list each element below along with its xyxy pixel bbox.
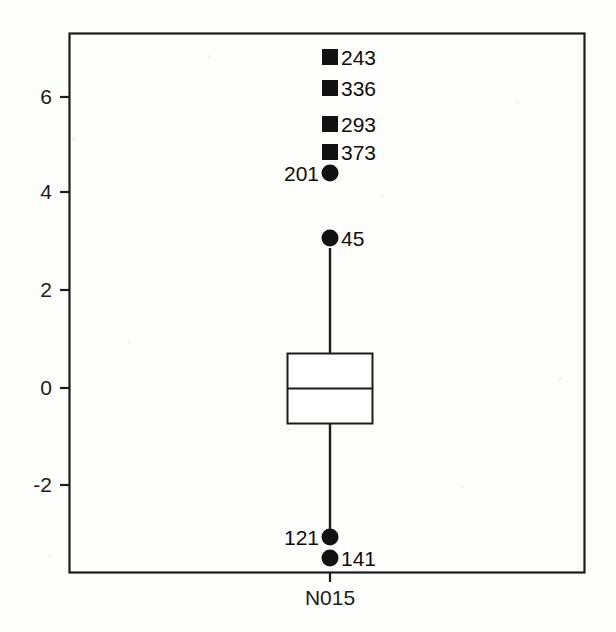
y-tick-label: 0 <box>40 376 52 399</box>
y-tick-2: 2 <box>40 278 69 301</box>
x-axis: N015 <box>305 572 355 609</box>
outlier-label: 293 <box>341 113 376 136</box>
outlier-label: 373 <box>341 141 376 164</box>
y-tick-6: 6 <box>40 85 69 108</box>
outlier-121: 121 <box>284 526 339 549</box>
y-tick-label: 4 <box>40 180 52 203</box>
outlier-label: 121 <box>284 526 319 549</box>
outlier-label: 336 <box>341 77 376 100</box>
x-category-label: N015 <box>305 586 355 609</box>
outlier-label: 45 <box>341 227 364 250</box>
outlier-293: 293 <box>322 113 376 136</box>
plot-frame <box>70 34 585 573</box>
outlier-373: 373 <box>322 141 376 164</box>
outlier-label: 201 <box>284 162 319 185</box>
y-tick-label: -2 <box>33 473 52 496</box>
boxplot-canvas: 6 4 2 0 -2 <box>0 0 616 632</box>
outlier-circle-marker <box>322 230 339 247</box>
outlier-square-marker <box>322 144 338 160</box>
outlier-141: 141 <box>322 547 377 570</box>
outlier-243: 243 <box>322 46 376 69</box>
outlier-square-marker <box>322 49 338 65</box>
y-tick-label: 2 <box>40 278 52 301</box>
outlier-circle-marker <box>322 165 339 182</box>
y-tick-label: 6 <box>40 85 52 108</box>
outlier-square-marker <box>322 80 338 96</box>
outlier-circle-marker <box>322 550 339 567</box>
box-group-n015 <box>288 248 373 530</box>
y-axis: 6 4 2 0 -2 <box>33 85 69 496</box>
outlier-square-marker <box>322 116 338 132</box>
y-tick-minus2: -2 <box>33 473 69 496</box>
outlier-201: 201 <box>284 162 339 185</box>
outlier-label: 243 <box>341 46 376 69</box>
outlier-circle-marker <box>322 529 339 546</box>
outlier-336: 336 <box>322 77 376 100</box>
y-tick-0: 0 <box>40 376 69 399</box>
y-tick-4: 4 <box>40 180 69 203</box>
outlier-label: 141 <box>341 547 376 570</box>
outlier-45: 45 <box>322 227 365 250</box>
boxplot-figure: 6 4 2 0 -2 <box>0 0 616 632</box>
